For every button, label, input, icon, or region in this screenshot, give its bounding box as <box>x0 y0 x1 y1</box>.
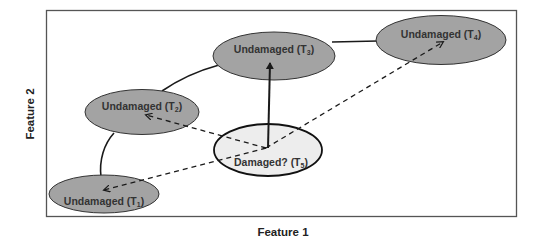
y-axis-label: Feature 2 <box>24 88 36 139</box>
node-t2-ellipse[interactable] <box>85 90 199 135</box>
feature-space-diagram: Undamaged (T4) Undamaged (T3) Undamaged … <box>0 0 543 239</box>
x-axis-label: Feature 1 <box>257 226 309 238</box>
node-t4-label: Undamaged (T4) <box>401 28 481 41</box>
node-t1-label: Undamaged (T1) <box>64 195 144 208</box>
node-t3-label: Undamaged (T3) <box>234 43 314 56</box>
node-t3-ellipse[interactable] <box>213 32 335 80</box>
edge-t3-t4 <box>332 41 378 42</box>
node-t1-ellipse[interactable] <box>49 175 159 213</box>
node-t4-ellipse[interactable] <box>376 16 506 65</box>
node-t5-label: Damaged? (T5) <box>234 156 308 169</box>
node-t2-label: Undamaged (T2) <box>102 100 182 113</box>
